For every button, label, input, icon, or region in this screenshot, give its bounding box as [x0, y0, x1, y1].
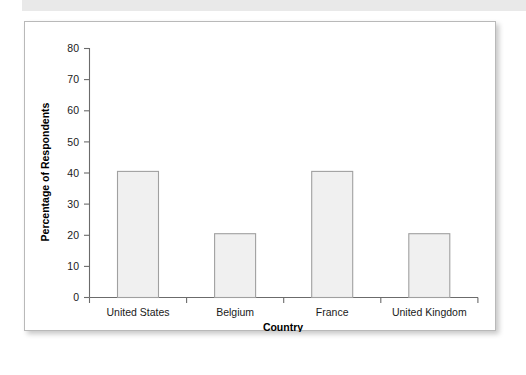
- bar-series: [118, 171, 450, 297]
- bar-united-states[interactable]: [118, 171, 159, 297]
- y-axis-tick-labels: 0 10 20 30 40 50 60 70 80: [67, 42, 79, 303]
- category-label: France: [316, 306, 349, 318]
- x-axis-ticks: [90, 298, 478, 304]
- bar-united-kingdom[interactable]: [409, 234, 450, 298]
- y-tick-label: 10: [67, 260, 79, 272]
- y-tick-label: 40: [67, 167, 79, 179]
- category-label: United States: [106, 306, 169, 318]
- x-axis-title: Country: [263, 321, 303, 332]
- x-axis-category-labels: United States Belgium France United King…: [106, 306, 466, 318]
- category-label: United Kingdom: [392, 306, 467, 318]
- y-tick-label: 20: [67, 229, 79, 241]
- y-tick-label: 60: [67, 104, 79, 116]
- y-tick-label: 80: [67, 42, 79, 54]
- chart-svg: 0 10 20 30 40 50 60 70 80: [25, 22, 497, 332]
- y-axis-ticks: [84, 49, 90, 298]
- bar-belgium[interactable]: [215, 234, 256, 298]
- bar-france[interactable]: [312, 171, 353, 297]
- category-label: Belgium: [216, 306, 254, 318]
- scan-artifact-band: [22, 0, 526, 11]
- figure-frame: 0 10 20 30 40 50 60 70 80: [24, 21, 496, 331]
- y-tick-label: 70: [67, 73, 79, 85]
- bar-chart: 0 10 20 30 40 50 60 70 80: [25, 22, 497, 332]
- y-tick-label: 0: [73, 291, 79, 303]
- y-tick-label: 30: [67, 198, 79, 210]
- y-tick-label: 50: [67, 136, 79, 148]
- y-axis-title: Percentage of Respondents: [39, 102, 51, 241]
